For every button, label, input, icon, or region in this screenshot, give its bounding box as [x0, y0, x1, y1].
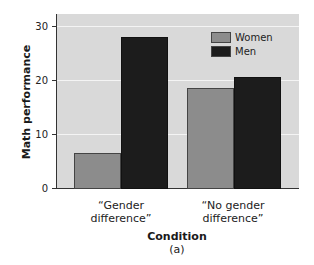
panel-label: (a) — [0, 243, 314, 256]
legend-label-men: Men — [235, 46, 256, 57]
bar-men-0 — [121, 37, 168, 189]
y-tick-label: 20 — [35, 75, 48, 86]
bar-women-1 — [187, 88, 234, 189]
y-tick — [52, 26, 56, 27]
legend: Women Men — [211, 30, 273, 58]
category-label-gender-difference: “Gender difference” — [66, 199, 176, 225]
y-tick — [52, 188, 56, 189]
bar-women-0 — [74, 153, 121, 189]
gridline — [56, 26, 299, 27]
y-axis — [56, 14, 57, 189]
y-tick — [52, 134, 56, 135]
y-tick-label: 0 — [42, 183, 48, 194]
legend-item-women: Women — [211, 30, 273, 44]
women-swatch — [211, 32, 231, 43]
category-label-no-gender-difference: “No gender difference” — [178, 199, 288, 225]
y-tick — [52, 80, 56, 81]
men-swatch — [211, 46, 231, 57]
bar-men-1 — [234, 77, 281, 189]
x-axis-label: Condition — [0, 230, 314, 243]
y-tick-label: 10 — [35, 129, 48, 140]
legend-item-men: Men — [211, 44, 273, 58]
y-tick-label: 30 — [35, 21, 48, 32]
legend-label-women: Women — [235, 32, 273, 43]
y-axis-label: Math performance — [20, 45, 33, 160]
